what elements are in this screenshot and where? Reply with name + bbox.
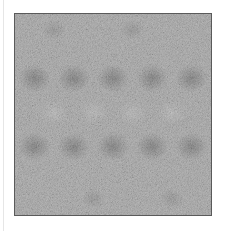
texture-noise-light [15,14,211,215]
canvas [0,0,226,231]
texture-image-panel [14,13,212,216]
left-divider-line [3,0,4,231]
